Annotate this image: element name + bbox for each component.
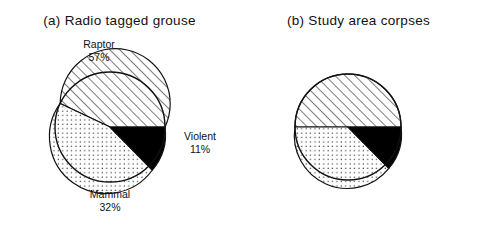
pie-a-label-raptor-name: Raptor (83, 38, 115, 50)
pie-panel-a: (a) Radio tagged grouse Raptor (0, 0, 239, 226)
pie-b-slice-raptor (295, 74, 401, 127)
pie-a-label-raptor: Raptor 57% (54, 38, 144, 63)
pie-a-label-mammal-pct: 32% (65, 201, 155, 214)
pie-a-label-violent: Violent 11% (170, 130, 230, 155)
pie-a-label-raptor-pct: 57% (54, 51, 144, 64)
pie-chart-b (239, 0, 478, 226)
pie-a-label-violent-name: Violent (184, 130, 216, 142)
pie-a-label-mammal-name: Mammal (90, 188, 130, 200)
pie-panel-b: (b) Study area corpses Raptor (239, 0, 478, 226)
pie-a-label-violent-pct: 11% (170, 143, 230, 156)
pie-a-label-mammal: Mammal 32% (65, 188, 155, 213)
figure-two-pie-charts: (a) Radio tagged grouse Raptor (0, 0, 478, 226)
